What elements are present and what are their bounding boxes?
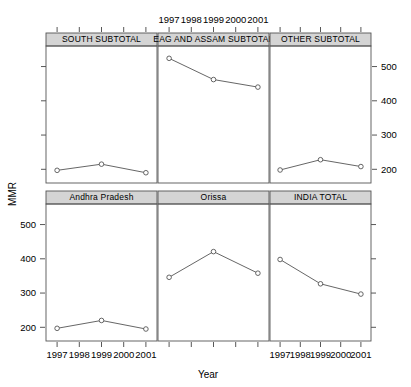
top-axis-tick-label: 1998: [181, 14, 202, 25]
data-point: [318, 282, 323, 287]
panel-other-subtotal: OTHER SUBTOTAL: [270, 33, 371, 183]
strip-header-label: OTHER SUBTOTAL: [281, 34, 360, 44]
strip-header-label: INDIA TOTAL: [294, 192, 347, 202]
panel-border: [158, 46, 269, 183]
bottom-axis-tick-label: 2000: [113, 349, 134, 360]
x-axis-title: Year: [198, 369, 219, 380]
data-point: [359, 164, 364, 169]
bottom-axis-tick-label: 1997: [47, 349, 68, 360]
data-point: [211, 249, 216, 254]
left-axis-tick-label: 200: [20, 322, 36, 333]
trellis-chart: 1997199819992000200119971998199920002001…: [0, 0, 411, 387]
right-axis-tick-label: 300: [381, 129, 397, 140]
bottom-axis-tick-label: 2000: [330, 349, 351, 360]
bottom-axis-tick-label: 1997: [270, 349, 291, 360]
data-point: [318, 157, 323, 162]
data-point: [256, 271, 261, 276]
panel-border: [158, 204, 269, 341]
top-axis-tick-label: 1999: [203, 14, 224, 25]
top-axis: 19971998199920002001: [57, 14, 361, 32]
data-point: [359, 292, 364, 297]
bottom-axis: 1997199819992000200119971998199920002001: [47, 342, 372, 360]
left-axis-tick-label: 300: [20, 287, 36, 298]
data-point: [144, 170, 149, 175]
bottom-axis-tick-label: 2001: [350, 349, 371, 360]
data-point: [167, 275, 172, 280]
panel-border: [270, 204, 371, 341]
top-axis-tick-label: 2001: [247, 14, 268, 25]
data-line: [169, 252, 258, 278]
bottom-axis-tick-label: 1999: [91, 349, 112, 360]
right-axis-tick-label: 500: [381, 61, 397, 72]
data-point: [99, 162, 104, 167]
left-axis-tick-label: 500: [20, 219, 36, 230]
data-point: [256, 85, 261, 90]
right-axis-tick-label: 400: [381, 95, 397, 106]
data-point: [278, 168, 283, 173]
left-axis-tick-label: 400: [20, 253, 36, 264]
data-point: [278, 257, 283, 262]
data-point: [99, 318, 104, 323]
data-line: [169, 58, 258, 87]
strip-header-label: SOUTH SUBTOTAL: [62, 34, 141, 44]
data-line: [280, 259, 361, 294]
panel-south-subtotal: SOUTH SUBTOTAL: [46, 33, 157, 183]
bottom-axis-tick-label: 1998: [69, 349, 90, 360]
data-point: [55, 168, 60, 173]
data-point: [211, 77, 216, 82]
panel-eag-and-assam-subtotal: EAG AND ASSAM SUBTOTAL: [153, 33, 273, 183]
bottom-axis-tick-label: 1998: [290, 349, 311, 360]
bottom-axis-tick-label: 1999: [310, 349, 331, 360]
data-point: [167, 56, 172, 61]
strip-header-label: Orissa: [201, 192, 227, 202]
right-axis-tick-label: 200: [381, 164, 397, 175]
chart-canvas: 1997199819992000200119971998199920002001…: [0, 0, 411, 387]
data-point: [144, 327, 149, 332]
top-axis-tick-label: 2000: [225, 14, 246, 25]
y-axis-title: MMR: [7, 182, 18, 206]
panel-orissa: Orissa: [158, 191, 269, 341]
panel-andhra-pradesh: Andhra Pradesh: [46, 191, 157, 341]
strip-header-label: EAG AND ASSAM SUBTOTAL: [153, 34, 273, 44]
top-axis-tick-label: 1997: [159, 14, 180, 25]
strip-header-label: Andhra Pradesh: [69, 192, 133, 202]
bottom-axis-tick-label: 2001: [135, 349, 156, 360]
data-point: [55, 326, 60, 331]
panel-india-total: INDIA TOTAL: [270, 191, 371, 341]
